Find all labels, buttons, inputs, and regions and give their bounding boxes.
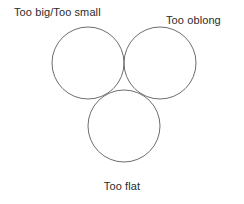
circle-too-oblong (124, 27, 196, 99)
circle-too-big-too-small (52, 27, 124, 99)
label-too-oblong: Too oblong (166, 14, 221, 27)
circle-too-flat (88, 90, 160, 162)
venn-diagram: Too big/Too small Too oblong Too flat (0, 0, 244, 204)
venn-circles-canvas (0, 0, 244, 204)
label-too-big-too-small: Too big/Too small (14, 6, 101, 19)
label-too-flat: Too flat (0, 180, 244, 193)
